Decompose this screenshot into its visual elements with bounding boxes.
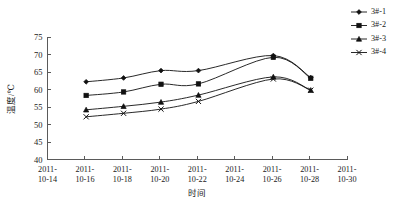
x-tick-label: 2011- xyxy=(150,165,169,174)
data-point-marker xyxy=(159,68,164,73)
y-tick-label: 50 xyxy=(34,120,43,130)
legend-label: 3#-4 xyxy=(371,47,386,56)
series-line xyxy=(86,57,311,95)
x-tick-label: 2011- xyxy=(76,165,95,174)
legend-label: 3#-3 xyxy=(371,34,386,43)
legend-label: 3#-2 xyxy=(371,20,386,29)
y-tick-label: 65 xyxy=(34,67,43,77)
y-tick-label: 70 xyxy=(34,50,43,60)
data-point-marker xyxy=(196,82,200,86)
chart-legend: 3#-13#-23#-33#-4 xyxy=(351,7,386,57)
x-tick-label: 2011- xyxy=(263,165,282,174)
x-tick-label: 2011- xyxy=(338,165,357,174)
chart-canvas: 4045505560657075 2011-10-142011-10-16201… xyxy=(0,0,416,211)
chart-axes xyxy=(47,37,347,160)
legend-marker-icon xyxy=(357,23,361,27)
x-tick-label: 10-24 xyxy=(225,175,244,184)
legend-label: 3#-1 xyxy=(371,7,386,16)
y-tick-group: 4045505560657075 xyxy=(34,32,51,165)
data-point-marker xyxy=(121,76,126,81)
data-point-marker xyxy=(196,99,201,104)
legend-item-3#-2[interactable]: 3#-2 xyxy=(351,20,386,29)
y-tick-label: 60 xyxy=(34,85,43,95)
data-point-marker xyxy=(196,68,201,73)
x-tick-label: 10-14 xyxy=(38,175,57,184)
y-axis-title: 温度/℃ xyxy=(6,84,16,114)
x-tick-label: 10-30 xyxy=(337,175,356,184)
legend-item-3#-4[interactable]: 3#-4 xyxy=(351,47,386,56)
y-tick-label: 75 xyxy=(34,32,43,42)
y-tick-label: 40 xyxy=(34,155,43,165)
x-tick-label: 10-22 xyxy=(188,175,207,184)
series-3#-2 xyxy=(84,55,313,98)
x-tick-label: 10-16 xyxy=(75,175,94,184)
x-tick-group: 2011-10-142011-10-162011-10-182011-10-20… xyxy=(38,156,357,184)
legend-marker-icon xyxy=(357,10,362,15)
x-tick-label: 2011- xyxy=(300,165,319,174)
legend-item-3#-3[interactable]: 3#-3 xyxy=(351,34,386,43)
temperature-line-chart: 4045505560657075 2011-10-142011-10-16201… xyxy=(0,0,416,211)
x-tick-label: 10-26 xyxy=(263,175,282,184)
data-point-marker xyxy=(84,93,88,97)
x-tick-label: 2011- xyxy=(188,165,207,174)
x-tick-label: 2011- xyxy=(225,165,244,174)
x-tick-label: 10-18 xyxy=(113,175,132,184)
x-axis-title: 时间 xyxy=(188,188,206,198)
x-tick-label: 2011- xyxy=(113,165,132,174)
x-tick-label: 2011- xyxy=(38,165,57,174)
data-point-marker xyxy=(159,82,163,86)
data-point-marker xyxy=(121,90,125,94)
x-tick-label: 10-20 xyxy=(150,175,169,184)
data-point-marker xyxy=(271,55,275,59)
series-group xyxy=(84,53,314,119)
y-tick-label: 55 xyxy=(34,102,43,112)
legend-item-3#-1[interactable]: 3#-1 xyxy=(351,7,386,16)
series-3#-3 xyxy=(84,74,314,112)
x-tick-label: 10-28 xyxy=(300,175,319,184)
y-tick-label: 45 xyxy=(34,137,43,147)
data-point-marker xyxy=(84,79,89,84)
data-point-marker xyxy=(309,76,313,80)
